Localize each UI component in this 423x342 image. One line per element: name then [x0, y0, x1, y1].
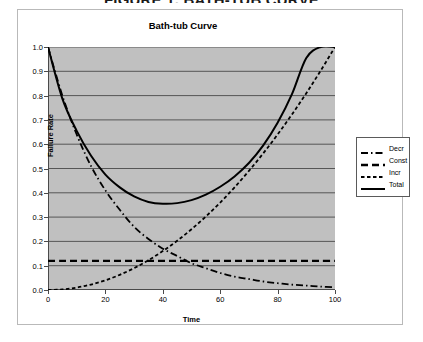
y-tick-label: 0.1 — [17, 261, 43, 270]
plot-container: 0.00.10.20.30.40.50.60.70.80.91.00204060… — [48, 47, 335, 290]
x-tick-label: 40 — [150, 295, 176, 304]
curve-decr — [48, 47, 335, 287]
y-tick-label: 0.7 — [17, 115, 43, 124]
legend-swatch-icon — [360, 156, 386, 166]
x-tick-label: 20 — [92, 295, 118, 304]
y-tick-mark — [44, 217, 48, 218]
legend-swatch-icon — [360, 168, 386, 178]
figure-frame: Bath-tub Curve 0.00.10.20.30.40.50.60.70… — [17, 9, 403, 325]
y-tick-mark — [44, 71, 48, 72]
chart-title: Bath-tub Curve — [18, 20, 348, 31]
y-axis-label: Failure Rate — [46, 114, 55, 157]
y-tick-label: 0.5 — [17, 164, 43, 173]
y-tick-label: 1.0 — [17, 43, 43, 52]
legend-item-incr: Incr — [360, 167, 405, 179]
x-tick-mark — [48, 290, 49, 294]
y-tick-mark — [44, 266, 48, 267]
y-tick-mark — [44, 96, 48, 97]
legend-label: Total — [389, 180, 404, 190]
x-axis-label: Time — [48, 315, 335, 324]
chart-svg — [48, 47, 335, 290]
y-tick-label: 0.6 — [17, 140, 43, 149]
y-tick-label: 0.2 — [17, 237, 43, 246]
x-tick-mark — [163, 290, 164, 294]
y-tick-mark — [44, 47, 48, 48]
x-tick-mark — [220, 290, 221, 294]
y-tick-label: 0.4 — [17, 188, 43, 197]
legend-item-total: Total — [360, 179, 405, 191]
chart-legend: DecrConstIncrTotal — [356, 137, 410, 197]
legend-item-decr: Decr — [360, 143, 405, 155]
x-tick-mark — [278, 290, 279, 294]
y-tick-mark — [44, 169, 48, 170]
y-tick-label: 0.8 — [17, 91, 43, 100]
y-tick-mark — [44, 193, 48, 194]
legend-item-const: Const — [360, 155, 405, 167]
y-tick-label: 0.0 — [17, 286, 43, 295]
y-tick-mark — [44, 241, 48, 242]
curve-total — [48, 47, 335, 204]
y-tick-label: 0.9 — [17, 67, 43, 76]
legend-swatch-icon — [360, 144, 386, 154]
x-tick-mark — [105, 290, 106, 294]
legend-label: Const — [389, 156, 407, 166]
x-tick-label: 80 — [265, 295, 291, 304]
x-tick-label: 60 — [207, 295, 233, 304]
y-tick-label: 0.3 — [17, 213, 43, 222]
x-tick-label: 100 — [322, 295, 348, 304]
figure-header: FIGURE 1. BATH-TUB CURVE — [0, 0, 423, 3]
legend-swatch-icon — [360, 180, 386, 190]
legend-label: Incr — [389, 168, 401, 178]
x-tick-label: 0 — [35, 295, 61, 304]
legend-label: Decr — [389, 144, 404, 154]
x-tick-mark — [335, 290, 336, 294]
